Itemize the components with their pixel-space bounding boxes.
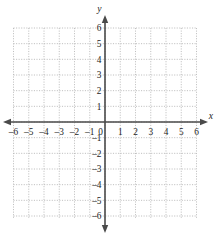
x-tick-labels-positive-4: 5 <box>179 127 184 137</box>
x-tick-labels-negative: –6 –5 –4 –3 –2 –1 <box>8 127 95 137</box>
x-axis-arrow-right <box>200 119 208 125</box>
y-tick-labels-negative-4: –5 <box>91 196 102 206</box>
x-tick-labels-positive: 1 2 3 4 5 6 <box>118 127 199 137</box>
x-tick-labels-negative-2: –4 <box>38 127 49 137</box>
coordinate-plane-svg: y x –6 –5 –4 –3 –2 –1 0 1 2 3 4 5 6 6 5 … <box>0 0 215 236</box>
x-tick-labels-positive-5: 6 <box>194 127 199 137</box>
x-tick-labels-positive-2: 3 <box>148 127 153 137</box>
x-axis-label: x <box>208 110 214 121</box>
x-tick-labels-negative-4: –2 <box>69 127 80 137</box>
x-axis-arrow-left <box>3 119 11 125</box>
y-axis-arrow-down <box>102 225 108 233</box>
y-tick-labels-negative-0: –1 <box>91 133 102 143</box>
y-axis-label: y <box>96 3 102 14</box>
y-tick-labels-negative-5: –6 <box>91 211 102 221</box>
y-tick-labels-positive: 6 5 4 3 2 1 <box>97 23 102 111</box>
x-tick-labels-positive-0: 1 <box>118 127 123 137</box>
x-tick-labels-negative-1: –5 <box>23 127 34 137</box>
x-tick-labels-positive-3: 4 <box>164 127 169 137</box>
y-tick-labels-positive-2: 4 <box>97 55 102 65</box>
y-tick-labels-negative-1: –2 <box>91 149 102 159</box>
y-tick-labels-positive-0: 6 <box>97 23 102 33</box>
x-tick-labels-negative-3: –3 <box>54 127 65 137</box>
y-tick-labels-negative-2: –3 <box>91 164 102 174</box>
y-tick-labels-positive-4: 2 <box>97 86 102 96</box>
x-tick-labels-negative-0: –6 <box>8 127 19 137</box>
y-tick-labels-positive-3: 3 <box>97 70 102 80</box>
y-tick-labels-negative-3: –4 <box>91 180 102 190</box>
coordinate-grid-figure: y x –6 –5 –4 –3 –2 –1 0 1 2 3 4 5 6 6 5 … <box>0 0 215 236</box>
y-axis-arrow-up <box>102 15 108 23</box>
y-tick-labels-positive-5: 1 <box>97 102 102 112</box>
y-tick-labels-negative: –1 –2 –3 –4 –5 –6 <box>91 133 102 221</box>
y-tick-labels-positive-1: 5 <box>97 39 102 49</box>
x-tick-labels-positive-1: 2 <box>133 127 138 137</box>
